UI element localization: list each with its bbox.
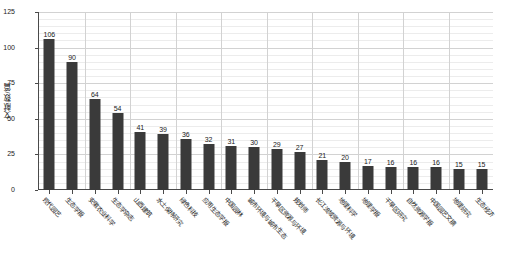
bar[interactable] — [453, 169, 464, 190]
bars-layer: 1069064544139363231302927212017161616151… — [38, 12, 493, 190]
y-axis-tick-mark — [35, 83, 39, 84]
bar[interactable] — [226, 146, 237, 190]
bar-slot: 64 — [84, 12, 107, 190]
x-axis-tick-mark — [254, 190, 255, 194]
bar-value-label: 30 — [250, 139, 258, 146]
bar-slot: 31 — [220, 12, 243, 190]
bar-value-label: 90 — [68, 54, 76, 61]
x-axis-tick-label: 地理科学 — [337, 195, 360, 219]
bar-slot: 30 — [243, 12, 266, 190]
y-axis-tick-label: 100 — [0, 44, 15, 51]
bar-value-label: 36 — [182, 131, 190, 138]
bar-value-label: 21 — [318, 152, 326, 159]
bar[interactable] — [271, 149, 282, 190]
bar-value-label: 64 — [91, 91, 99, 98]
bar[interactable] — [431, 167, 442, 190]
bar[interactable] — [67, 62, 78, 190]
x-axis-tick-label: 生态经济 — [473, 195, 496, 219]
x-axis-tick-mark — [277, 190, 278, 194]
bar-value-label: 54 — [114, 105, 122, 112]
bar-value-label: 15 — [455, 161, 463, 168]
y-axis-tick-label: 50 — [0, 115, 15, 122]
bar-value-label: 15 — [478, 161, 486, 168]
x-axis-tick-mark — [49, 190, 50, 194]
bar-value-label: 27 — [296, 144, 304, 151]
y-axis-tick-mark — [35, 154, 39, 155]
bar[interactable] — [249, 147, 260, 190]
x-axis-tick-label: 规划师 — [291, 195, 310, 214]
bar-slot: 21 — [311, 12, 334, 190]
x-axis-tick-mark — [482, 190, 483, 194]
bar-slot: 20 — [334, 12, 357, 190]
x-axis-tick-mark — [163, 190, 164, 194]
bar-value-label: 17 — [364, 158, 372, 165]
x-axis-tick-mark — [368, 190, 369, 194]
bar[interactable] — [317, 160, 328, 190]
bar[interactable] — [112, 113, 123, 190]
bar-slot: 90 — [61, 12, 84, 190]
x-axis-tick-mark — [95, 190, 96, 194]
bar-slot: 15 — [470, 12, 493, 190]
bar-slot: 15 — [448, 12, 471, 190]
x-axis-tick-mark — [322, 190, 323, 194]
bar[interactable] — [385, 167, 396, 190]
y-axis-tick-mark — [35, 119, 39, 120]
bar-value-label: 106 — [44, 31, 56, 38]
bar-value-label: 31 — [227, 138, 235, 145]
x-axis-tick-mark — [72, 190, 73, 194]
bar[interactable] — [180, 139, 191, 190]
y-axis-tick-label: 125 — [0, 8, 15, 15]
bar-slot: 106 — [38, 12, 61, 190]
x-axis-tick-mark — [345, 190, 346, 194]
bar-value-label: 32 — [205, 136, 213, 143]
x-axis-tick-mark — [209, 190, 210, 194]
bar[interactable] — [44, 39, 55, 190]
bar-value-label: 16 — [432, 159, 440, 166]
bar[interactable] — [89, 99, 100, 190]
bar-value-label: 41 — [136, 124, 144, 131]
y-axis-tick-mark — [35, 48, 39, 49]
x-axis-tick-mark — [300, 190, 301, 194]
y-axis-tick-label: 25 — [0, 150, 15, 157]
bar-slot: 17 — [357, 12, 380, 190]
bar[interactable] — [158, 134, 169, 190]
bar[interactable] — [476, 169, 487, 190]
bar[interactable] — [203, 144, 214, 190]
bar[interactable] — [294, 152, 305, 190]
x-axis-tick-label: 城市环境与城市生态 — [246, 195, 289, 241]
y-axis-tick-mark — [35, 190, 39, 191]
bar-value-label: 20 — [341, 154, 349, 161]
y-axis-tick-mark — [35, 12, 39, 13]
y-axis-tick-label: 75 — [0, 79, 15, 86]
x-axis-tick-label: 生态学报 — [64, 195, 87, 219]
x-axis-tick-mark — [140, 190, 141, 194]
bar-slot: 16 — [402, 12, 425, 190]
x-axis-tick-label: 地理学报 — [359, 195, 382, 219]
bar-value-label: 29 — [273, 141, 281, 148]
bar-value-label: 39 — [159, 126, 167, 133]
x-axis-tick-label: 长江流域资源与环境 — [314, 195, 357, 241]
bar[interactable] — [340, 162, 351, 190]
bar-value-label: 16 — [387, 159, 395, 166]
x-axis-tick-label: 现代园艺 — [41, 195, 64, 219]
bar-slot: 16 — [425, 12, 448, 190]
bar[interactable] — [362, 166, 373, 190]
bar-slot: 41 — [129, 12, 152, 190]
x-axis-tick-mark — [231, 190, 232, 194]
bar[interactable] — [135, 132, 146, 190]
bar-slot: 16 — [379, 12, 402, 190]
x-axis-tick-mark — [436, 190, 437, 194]
bar-chart: 文献数/篇 1069064544139363231302927212017161… — [0, 0, 510, 263]
y-axis-title: 文献数/篇 — [2, 66, 16, 136]
bar[interactable] — [408, 167, 419, 190]
x-axis-tick-label: 地理研究 — [450, 195, 473, 219]
bar-slot: 39 — [152, 12, 175, 190]
x-axis-tick-mark — [118, 190, 119, 194]
bar-slot: 27 — [288, 12, 311, 190]
x-axis-tick-mark — [413, 190, 414, 194]
bar-slot: 32 — [197, 12, 220, 190]
x-axis-tick-mark — [459, 190, 460, 194]
x-axis-tick-label: 绿色科技 — [177, 195, 200, 219]
bar-slot: 54 — [106, 12, 129, 190]
x-axis-tick-mark — [391, 190, 392, 194]
